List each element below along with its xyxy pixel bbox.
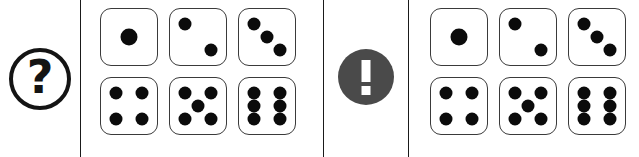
divider-3 [408, 0, 409, 157]
exclamation-bar [362, 60, 371, 82]
die-face-6 [238, 77, 296, 135]
pip-bottom-right [535, 44, 548, 57]
pip-top-right [205, 86, 218, 99]
pip-center [192, 100, 205, 113]
pip-top-right [535, 86, 548, 99]
question-badge-panel: ? [0, 0, 80, 157]
pip-bottom-right [604, 113, 617, 126]
exclamation-dot [362, 86, 371, 95]
die-face-1 [430, 8, 488, 66]
pip-top-left [439, 86, 452, 99]
pip-top-left [109, 86, 122, 99]
pip-center [451, 29, 468, 46]
pip-top-right [604, 86, 617, 99]
pip-center [591, 31, 604, 44]
question-mark-circle-icon: ? [9, 48, 71, 110]
die-face-6 [568, 77, 626, 135]
pip-bottom-left [109, 113, 122, 126]
pip-bottom-right [604, 44, 617, 57]
divider-1 [80, 0, 81, 157]
pip-top-right [274, 86, 287, 99]
left-dice-group [100, 8, 296, 135]
pip-bottom-left [247, 113, 260, 126]
pip-middle-left [247, 100, 260, 113]
pip-bottom-right [535, 113, 548, 126]
pip-bottom-left [508, 113, 521, 126]
pip-top-left [178, 86, 191, 99]
pip-bottom-right [274, 113, 287, 126]
pip-center [522, 100, 535, 113]
pip-top-left [577, 17, 590, 30]
exclamation-mark-circle-icon [338, 49, 394, 105]
question-mark-glyph: ? [27, 54, 54, 100]
pip-center [121, 29, 138, 46]
pip-top-right [136, 86, 149, 99]
pip-top-left [508, 17, 521, 30]
right-dice-group [430, 8, 626, 135]
pip-middle-left [577, 100, 590, 113]
pip-bottom-right [466, 113, 479, 126]
pip-top-left [247, 86, 260, 99]
pip-bottom-right [205, 113, 218, 126]
pip-top-left [178, 17, 191, 30]
die-face-5 [169, 77, 227, 135]
pip-bottom-right [274, 44, 287, 57]
pip-middle-right [604, 100, 617, 113]
dice-comparison-panel: ? [0, 0, 639, 157]
alert-badge-panel [324, 0, 408, 157]
die-face-3 [568, 8, 626, 66]
pip-top-left [577, 86, 590, 99]
pip-middle-right [274, 100, 287, 113]
pip-bottom-right [205, 44, 218, 57]
pip-top-left [247, 17, 260, 30]
die-face-4 [100, 77, 158, 135]
pip-bottom-left [178, 113, 191, 126]
die-face-5 [499, 77, 557, 135]
pip-top-left [508, 86, 521, 99]
pip-bottom-right [136, 113, 149, 126]
pip-center [261, 31, 274, 44]
pip-bottom-left [439, 113, 452, 126]
die-face-2 [169, 8, 227, 66]
pip-bottom-left [577, 113, 590, 126]
die-face-4 [430, 77, 488, 135]
pip-top-right [466, 86, 479, 99]
die-face-2 [499, 8, 557, 66]
die-face-3 [238, 8, 296, 66]
die-face-1 [100, 8, 158, 66]
